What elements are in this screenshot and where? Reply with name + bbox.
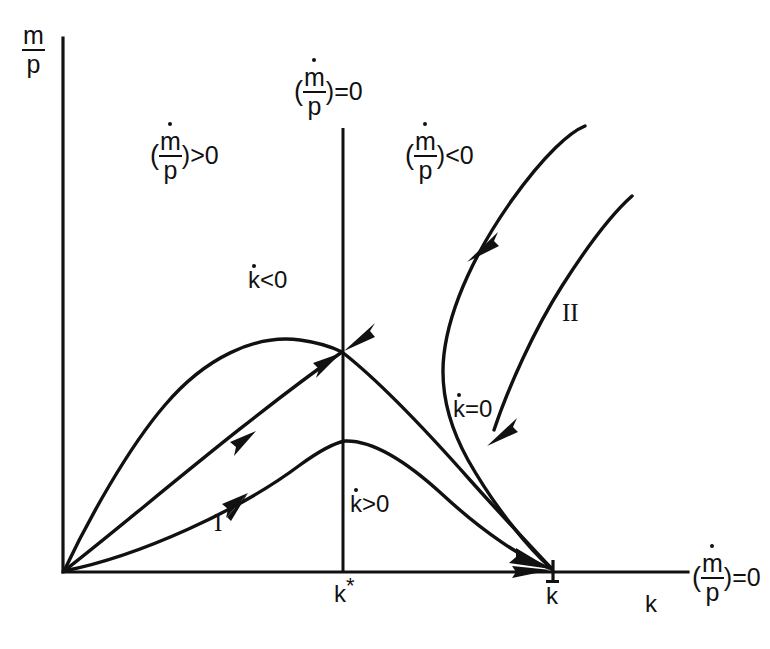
nullcline-label-open-paren: ( — [294, 76, 303, 106]
arrowhead-into-k-star-from-left — [313, 353, 341, 378]
trajectory-label-II: II — [562, 300, 579, 325]
nullcline-label-suffix: )=0 — [326, 77, 363, 105]
region-label-k-dot-positive: k>0 — [350, 492, 389, 516]
region4-letter: k — [453, 397, 465, 421]
xaxis-label-suffix: )=0 — [724, 563, 761, 591]
xaxis-label-open-paren: ( — [692, 562, 701, 592]
region1-numerator: m — [414, 129, 437, 157]
region4-suffix: =0 — [465, 395, 492, 422]
arrowhead-outer-right-branch — [467, 232, 499, 262]
region3-suffix: >0 — [362, 490, 389, 517]
k-dot-zero-lower-hump — [64, 441, 552, 571]
k-bar-letter: k — [546, 584, 558, 608]
y-axis-label: m p — [22, 24, 45, 78]
region3-letter: k — [350, 492, 362, 516]
x-tick-label-k-star: k* — [334, 582, 355, 606]
arrowhead-trajectory-II — [487, 418, 518, 446]
phase-diagram-svg — [0, 0, 770, 649]
region2-suffix: <0 — [260, 266, 287, 293]
k-dot-zero-curve-label: k=0 — [453, 397, 492, 421]
region1-open-paren: ( — [405, 140, 414, 170]
region2-letter: k — [248, 268, 260, 292]
saddle-path-I — [64, 352, 342, 571]
k-star-letter: k — [334, 580, 346, 607]
nullcline-label-numerator: m — [303, 65, 326, 93]
region0-numerator: m — [159, 129, 182, 157]
region0-open-paren: ( — [150, 140, 159, 170]
region0-denominator: p — [162, 157, 178, 183]
region-label-k-dot-negative: k<0 — [248, 268, 287, 292]
region0-suffix: )>0 — [182, 141, 219, 169]
y-axis-numerator: m — [22, 23, 45, 51]
x-axis-letter-label: k — [645, 592, 657, 616]
region-label-m-dot-negative: ( m p )<0 — [405, 130, 474, 184]
region1-denominator: p — [417, 157, 433, 183]
region1-suffix: )<0 — [437, 141, 474, 169]
k-dot-zero-right-branch — [443, 126, 585, 569]
arrowhead-into-k-star-from-right — [344, 323, 375, 351]
m-dot-over-p-zero-label: ( m p )=0 — [294, 66, 363, 120]
y-axis-denominator: p — [25, 51, 41, 77]
xaxis-label-denominator: p — [704, 579, 720, 605]
k-star-mark: * — [346, 573, 355, 598]
trajectory-label-I: I — [214, 510, 222, 535]
nullcline-label-denominator: p — [306, 93, 322, 119]
xaxis-label-numerator: m — [701, 551, 724, 579]
x-axis-nullcline-label: ( m p )=0 — [692, 552, 761, 606]
x-tick-label-k-bar: k — [546, 584, 558, 608]
region-label-m-dot-positive: ( m p )>0 — [150, 130, 219, 184]
phase-diagram-figure: m p ( m p )=0 ( m p )>0 ( m p )<0 k<0 k>… — [0, 0, 770, 649]
